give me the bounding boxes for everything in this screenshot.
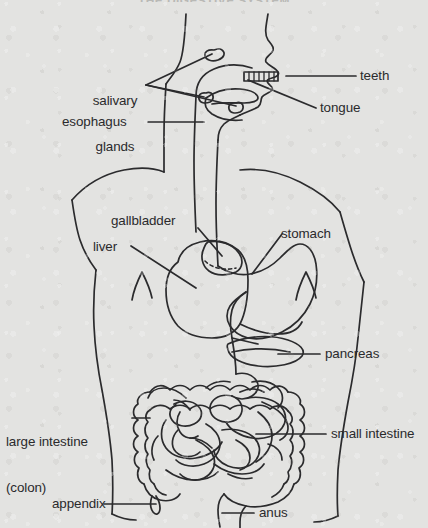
label-large-intestine-line1: large intestine (6, 434, 88, 449)
label-anus: anus (259, 506, 288, 521)
label-appendix: appendix (52, 497, 106, 512)
label-liver: liver (93, 240, 117, 255)
small-intestine-coil-10 (214, 429, 259, 468)
torso-right-side (337, 282, 364, 516)
teeth-hatching (249, 72, 274, 81)
label-small-intestine: small intestine (331, 427, 414, 442)
salivary-gland-parotid (205, 49, 224, 61)
leader-salivary-gland-3 (146, 85, 236, 106)
leader-salivary-gland-1 (146, 54, 212, 85)
label-large-intestine-line2: (colon) (6, 480, 88, 495)
esophagus-right-wall (216, 140, 218, 266)
rectum-left-wall (218, 494, 224, 527)
right-shoulder-outline (240, 170, 340, 213)
small-intestine-coil-21 (240, 389, 264, 392)
liver-outline (166, 241, 248, 338)
salivary-gland-sublingual (229, 102, 243, 113)
right-hip-outline (314, 516, 338, 522)
leader-tongue (248, 80, 316, 108)
small-intestine-coil-2 (210, 395, 242, 422)
neck-back-outline (164, 84, 166, 172)
small-intestine-coil-24 (152, 436, 158, 460)
small-intestine-coil-14 (214, 464, 264, 474)
small-intestine-coil-11 (236, 440, 250, 470)
esophagus-left-wall (194, 96, 196, 232)
label-esophagus: esophagus (62, 115, 127, 130)
left-shoulder-outline (72, 168, 164, 200)
gallbladder-outline (202, 241, 242, 274)
small-intestine-coil-8 (172, 430, 200, 457)
stomach-greater-curve (218, 244, 317, 339)
sigmoid-inner (272, 484, 284, 497)
leader-liver (131, 246, 196, 288)
label-tongue: tongue (320, 101, 360, 116)
small-intestine-coil-9 (176, 424, 220, 466)
label-salivary-glands-line1: salivary (84, 93, 146, 108)
label-teeth: teeth (360, 69, 389, 84)
label-stomach: stomach (281, 227, 331, 242)
small-intestine-coil-3 (226, 397, 285, 438)
right-arm-outline (340, 212, 364, 282)
left-arm-outline (72, 200, 96, 270)
pancreas-inner-line (232, 349, 290, 352)
liver-right-lobe (240, 322, 302, 334)
sigmoid-colon-outline (224, 484, 294, 507)
left-hip-outline (112, 514, 136, 520)
small-intestine-coil-15 (148, 388, 186, 398)
label-pancreas: pancreas (325, 347, 379, 362)
cecum-outline (144, 484, 180, 501)
label-salivary-glands-line2: glands (84, 139, 146, 154)
rectum-right-wall (240, 506, 246, 528)
face-profile-outline (240, 14, 279, 115)
torso-left-side (94, 270, 113, 514)
left-ribcage-notch (132, 272, 152, 300)
label-gallbladder: gallbladder (111, 214, 175, 229)
label-large-intestine: large intestine (colon) (6, 404, 88, 510)
cecum-inner (154, 484, 166, 495)
small-intestine-coil-18 (166, 470, 218, 480)
